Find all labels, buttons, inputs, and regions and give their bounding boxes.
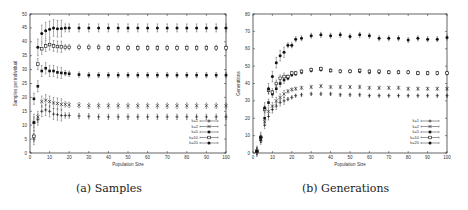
- svg-text:k=1: k=1: [191, 118, 198, 123]
- svg-text:10: 10: [270, 155, 276, 160]
- svg-text:20: 20: [22, 95, 28, 100]
- svg-text:5: 5: [24, 137, 27, 142]
- svg-text:80: 80: [406, 155, 412, 160]
- series-k5: [33, 63, 228, 105]
- series-k1: [255, 92, 448, 154]
- svg-text:30: 30: [22, 67, 28, 72]
- svg-text:k=2: k=2: [191, 124, 198, 129]
- svg-text:k=10: k=10: [189, 135, 199, 140]
- legend: k=1k=2k=5k=10k=20: [410, 118, 439, 145]
- svg-text:70: 70: [165, 155, 171, 160]
- svg-text:k=5: k=5: [412, 129, 419, 134]
- svg-text:90: 90: [204, 155, 210, 160]
- svg-text:30: 30: [245, 98, 251, 103]
- svg-text:0: 0: [29, 155, 32, 160]
- svg-text:100: 100: [222, 155, 230, 160]
- svg-text:40: 40: [22, 39, 28, 44]
- svg-text:60: 60: [367, 155, 373, 160]
- svg-text:40: 40: [106, 155, 112, 160]
- svg-text:0: 0: [247, 151, 250, 156]
- chart-samples: 0102030405060708090100051015202530354045…: [0, 0, 234, 180]
- svg-text:25: 25: [22, 81, 28, 86]
- series-k20: [32, 20, 227, 131]
- svg-text:Population Size: Population Size: [334, 162, 366, 167]
- svg-text:50: 50: [347, 155, 353, 160]
- svg-text:50: 50: [22, 12, 28, 17]
- series-k1: [32, 104, 227, 144]
- svg-text:100: 100: [443, 155, 451, 160]
- svg-text:60: 60: [145, 155, 151, 160]
- svg-text:k=5: k=5: [191, 129, 198, 134]
- svg-text:10: 10: [245, 133, 251, 138]
- svg-text:k=20: k=20: [410, 140, 420, 145]
- generations-plot: 010203040506070809010001020304050607080P…: [234, 0, 468, 180]
- caption-samples: (a) Samples: [76, 182, 142, 195]
- series-k5: [256, 68, 449, 155]
- svg-text:10: 10: [47, 155, 53, 160]
- svg-text:20: 20: [245, 116, 251, 121]
- svg-text:0: 0: [252, 155, 255, 160]
- svg-text:Population Size: Population Size: [112, 162, 144, 167]
- svg-text:40: 40: [328, 155, 334, 160]
- svg-text:60: 60: [245, 46, 251, 51]
- samples-plot: 0102030405060708090100051015202530354045…: [0, 0, 234, 180]
- chart-generations: 010203040506070809010001020304050607080P…: [234, 0, 468, 180]
- svg-text:k=20: k=20: [189, 140, 199, 145]
- svg-text:30: 30: [86, 155, 92, 160]
- svg-text:70: 70: [245, 29, 251, 34]
- svg-text:k=10: k=10: [410, 135, 420, 140]
- caption-generations: (b) Generations: [302, 182, 389, 195]
- legend: k=1k=2k=5k=10k=20: [189, 118, 218, 145]
- svg-text:50: 50: [125, 155, 131, 160]
- svg-text:0: 0: [24, 151, 27, 156]
- svg-text:Generations: Generations: [236, 70, 241, 95]
- svg-text:20: 20: [289, 155, 295, 160]
- svg-text:90: 90: [425, 155, 431, 160]
- svg-text:45: 45: [22, 25, 28, 30]
- svg-text:35: 35: [22, 53, 28, 58]
- svg-text:k=1: k=1: [412, 118, 419, 123]
- series-k2: [255, 84, 448, 154]
- series-k2: [32, 95, 227, 128]
- svg-text:k=2: k=2: [412, 124, 419, 129]
- svg-text:10: 10: [22, 123, 28, 128]
- svg-text:30: 30: [309, 155, 315, 160]
- series-k10: [256, 67, 449, 155]
- svg-text:80: 80: [184, 155, 190, 160]
- svg-text:Samples per individual: Samples per individual: [13, 61, 18, 106]
- series-k10: [33, 39, 228, 142]
- svg-text:40: 40: [245, 81, 251, 86]
- svg-text:20: 20: [67, 155, 73, 160]
- svg-text:50: 50: [245, 64, 251, 69]
- svg-text:15: 15: [22, 109, 28, 114]
- svg-text:70: 70: [386, 155, 392, 160]
- svg-text:80: 80: [245, 12, 251, 17]
